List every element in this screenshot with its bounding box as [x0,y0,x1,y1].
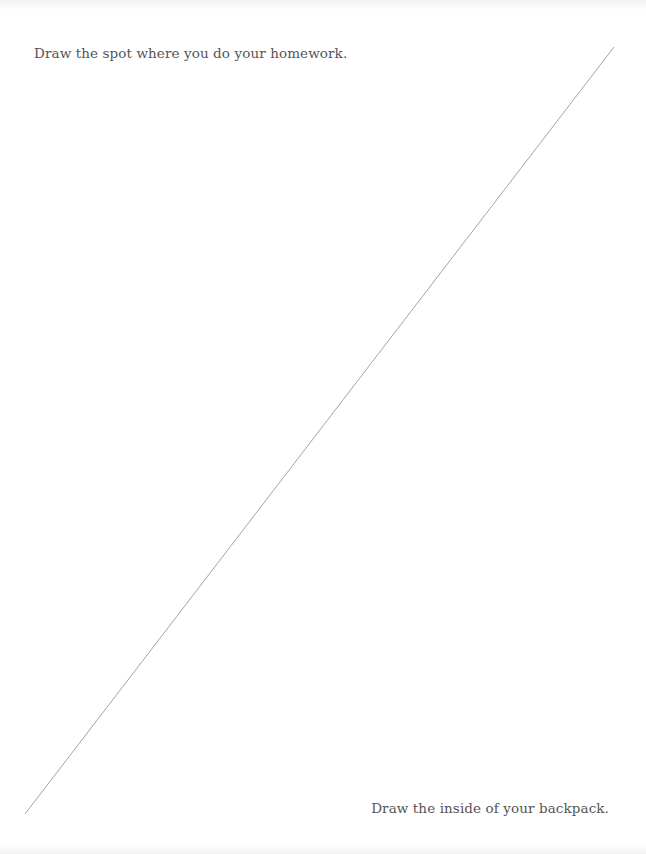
activity-page: Draw the spot where you do your homework… [0,0,646,854]
bottom-drawing-prompt: Draw the inside of your backpack. [371,800,609,816]
page-bottom-edge [0,844,646,854]
diagonal-divider-line [0,0,646,854]
